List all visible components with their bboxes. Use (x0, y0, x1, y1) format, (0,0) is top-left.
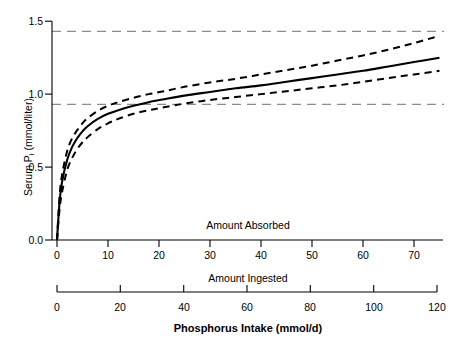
x-tick-label-ingested-120: 120 (428, 302, 446, 313)
x-tick-label-absorbed-40: 40 (255, 250, 267, 261)
y-axis-title: Serum Pi (mmol/liter) (22, 98, 34, 196)
x-axis-absorbed (52, 240, 443, 247)
x-axis-ingested-title: Amount Ingested (208, 272, 287, 284)
upper-confidence-band-path (57, 36, 440, 240)
y-axis-title-suffix: (mmol/liter) (22, 98, 34, 153)
x-tick-label-ingested-100: 100 (365, 302, 383, 313)
x-axis-ingested (57, 285, 437, 292)
x-tick-label-ingested-60: 60 (241, 302, 253, 313)
x-tick-label-absorbed-0: 0 (54, 250, 60, 261)
x-tick-label-absorbed-50: 50 (306, 250, 318, 261)
y-tick-label-0.0: 0.0 (17, 235, 43, 246)
x-tick-label-absorbed-20: 20 (153, 250, 165, 261)
x-tick-label-ingested-80: 80 (304, 302, 316, 313)
y-axis-title-prefix: Serum P (22, 155, 34, 196)
plot-canvas (0, 0, 451, 343)
x-tick-label-absorbed-10: 10 (102, 250, 114, 261)
chart-figure: 1.5 1.0 0.5 0.0 Serum Pi (mmol/liter) Am… (0, 0, 451, 343)
x-axis-absorbed-title: Amount Absorbed (206, 219, 289, 231)
x-tick-label-ingested-20: 20 (114, 302, 126, 313)
y-axis-title-subscript: i (27, 153, 36, 155)
fitted-curve-path (57, 58, 440, 240)
chart-title: Phosphorus Intake (mmol/d) (174, 322, 323, 334)
x-tick-label-ingested-40: 40 (178, 302, 190, 313)
x-tick-label-absorbed-30: 30 (204, 250, 216, 261)
data-series-group (57, 36, 440, 240)
y-axis (45, 21, 52, 240)
lower-confidence-band-path (57, 71, 440, 240)
x-tick-label-absorbed-60: 60 (357, 250, 369, 261)
x-tick-label-ingested-0: 0 (54, 302, 60, 313)
y-tick-label-1.5: 1.5 (17, 16, 43, 27)
x-tick-label-absorbed-70: 70 (408, 250, 420, 261)
